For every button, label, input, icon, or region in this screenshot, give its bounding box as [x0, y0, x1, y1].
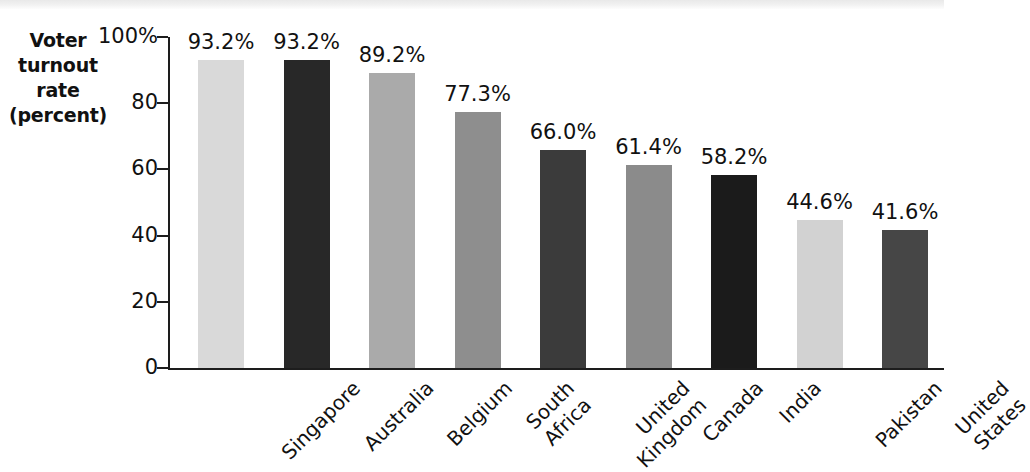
- bar-india[interactable]: 58.2%: [711, 37, 757, 368]
- x-axis-label-united-states: UnitedStates: [950, 376, 1030, 456]
- bar-value-label: 41.6%: [872, 202, 939, 223]
- bar-canada[interactable]: 61.4%: [626, 37, 672, 368]
- x-axis-label-line: Singapore: [277, 376, 365, 464]
- x-axis-label-pakistan: Pakistan: [870, 376, 946, 452]
- bar-rect: [540, 150, 586, 368]
- y-tick-mark: [157, 168, 168, 170]
- x-axis-label-south-africa: SouthAfrica: [521, 376, 596, 451]
- bar-value-label: 93.2%: [188, 32, 255, 53]
- bar-value-label: 58.2%: [701, 147, 768, 168]
- bar-value-label: 61.4%: [615, 137, 682, 158]
- x-axis-line: [168, 368, 944, 370]
- y-tick-mark: [157, 367, 168, 369]
- y-tick-label: 60: [88, 158, 158, 179]
- x-axis-label-line: Pakistan: [870, 376, 946, 452]
- y-axis-tick-labels: 100%806040200: [88, 37, 158, 368]
- y-tick-label: 40: [88, 225, 158, 246]
- y-axis-line: [168, 37, 170, 369]
- bar-rect: [626, 165, 672, 368]
- bar-value-label: 77.3%: [444, 84, 511, 105]
- bar-south-africa[interactable]: 77.3%: [455, 37, 501, 368]
- bar-pakistan[interactable]: 44.6%: [797, 37, 843, 368]
- y-tick-label: 80: [88, 92, 158, 113]
- bar-belgium[interactable]: 89.2%: [369, 37, 415, 368]
- x-axis-label-singapore: Singapore: [277, 376, 365, 464]
- y-tick-label: 0: [88, 357, 158, 378]
- x-axis-label-line: Australia: [358, 376, 438, 456]
- bar-united-kingdom[interactable]: 66.0%: [540, 37, 586, 368]
- bar-value-label: 44.6%: [786, 192, 853, 213]
- plot-area: 93.2%93.2%89.2%77.3%66.0%61.4%58.2%44.6%…: [168, 37, 944, 368]
- x-axis-label-australia: Australia: [358, 376, 438, 456]
- bar-value-label: 66.0%: [530, 122, 597, 143]
- bar-rect: [797, 220, 843, 368]
- y-tick-mark: [157, 235, 168, 237]
- bar-rect: [882, 230, 928, 368]
- x-axis-label-united-kingdom: UnitedKingdom: [615, 376, 711, 472]
- bar-value-label: 89.2%: [359, 45, 426, 66]
- bar-value-label: 93.2%: [273, 32, 340, 53]
- y-tick-label: 20: [88, 291, 158, 312]
- y-tick-mark: [157, 301, 168, 303]
- bar-rect: [369, 73, 415, 368]
- bar-rect: [198, 60, 244, 368]
- y-tick-label: 100%: [88, 26, 158, 47]
- y-tick-mark: [157, 36, 168, 38]
- x-axis-label-line: Belgium: [442, 376, 517, 451]
- x-axis-label-india: India: [774, 376, 826, 428]
- bar-australia[interactable]: 93.2%: [284, 37, 330, 368]
- bar-rect: [284, 60, 330, 368]
- bar-rect: [455, 112, 501, 368]
- y-tick-mark: [157, 102, 168, 104]
- bar-united-states[interactable]: 41.6%: [882, 37, 928, 368]
- bar-rect: [711, 175, 757, 368]
- bar-singapore[interactable]: 93.2%: [198, 37, 244, 368]
- x-axis-label-line: India: [774, 376, 826, 428]
- x-axis-label-belgium: Belgium: [442, 376, 517, 451]
- x-axis-category-labels: SingaporeAustraliaBelgiumSouthAfricaUnit…: [168, 372, 944, 442]
